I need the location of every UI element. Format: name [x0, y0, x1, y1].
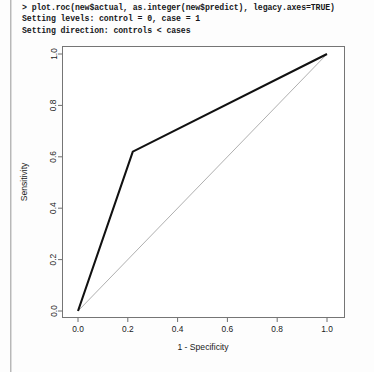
y-tick-label: 1.0 [49, 48, 59, 60]
x-axis-ticks [78, 318, 327, 323]
x-tick-label: 0.6 [222, 324, 234, 334]
page-canvas: > plot.roc(new$actual, as.integer(new$pr… [0, 0, 374, 372]
x-axis-tick-labels: 0.00.20.40.60.81.0 [72, 324, 333, 334]
x-tick-label: 0.4 [172, 324, 184, 334]
x-axis-title: 1 - Specificity [177, 342, 229, 352]
x-tick-label: 0.2 [122, 324, 134, 334]
y-tick-label: 0.8 [49, 99, 59, 111]
x-tick-label: 0.0 [72, 324, 84, 334]
y-tick-label: 0.0 [49, 305, 59, 317]
x-tick-label: 1.0 [321, 324, 333, 334]
y-tick-label: 0.2 [49, 253, 59, 265]
roc-plot: 0.00.20.40.60.81.0 0.00.20.40.60.81.0 1 … [0, 0, 374, 372]
y-tick-label: 0.4 [49, 202, 59, 214]
y-axis-title: Sensitivity [19, 162, 29, 201]
y-tick-label: 0.6 [49, 151, 59, 163]
y-axis-tick-labels: 0.00.20.40.60.81.0 [49, 48, 59, 317]
y-axis-ticks [58, 54, 63, 311]
x-tick-label: 0.8 [271, 324, 283, 334]
